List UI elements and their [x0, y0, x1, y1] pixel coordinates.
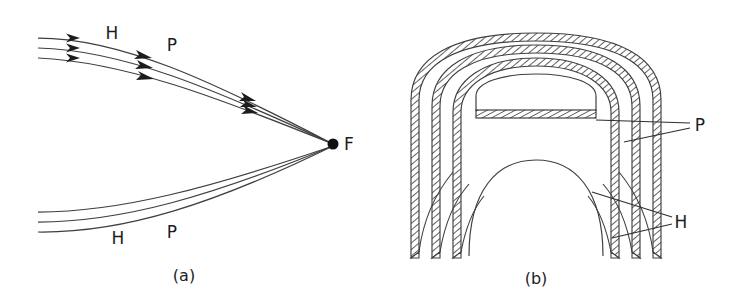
leader-lines-p: [596, 120, 690, 142]
foot-arc: [461, 196, 484, 252]
panel-b-caption: (b): [525, 269, 548, 288]
leader-line: [596, 120, 690, 123]
upper-ray-bundle: [38, 38, 333, 144]
inner-dome-outline: [476, 74, 596, 111]
panel-a-caption: (a): [173, 266, 195, 285]
upper-ray-3: [38, 58, 333, 144]
band-foot-arcs-left: [419, 172, 484, 252]
lower-ray-2: [38, 146, 333, 222]
upper-label-p: P: [167, 35, 177, 55]
core-arc: [469, 160, 603, 256]
upper-ray-1: [38, 38, 333, 144]
band-foot-arcs-right: [588, 172, 653, 252]
focal-point-dot: [328, 139, 339, 150]
scientific-figure: F H P H P (a): [0, 0, 738, 308]
focal-point-label: F: [344, 134, 354, 154]
inner-hatched-bar: [476, 110, 596, 118]
outer-band: [411, 33, 661, 258]
panel-b-label-p: P: [695, 115, 705, 135]
arrowhead: [239, 92, 256, 101]
upper-arrowheads-station-1: [66, 34, 80, 63]
upper-label-h: H: [106, 23, 119, 43]
arrowhead: [134, 50, 152, 59]
lower-ray-bundle: [38, 146, 333, 232]
band-foot-tips: [411, 252, 661, 258]
panel-a: F H P H P (a): [38, 23, 354, 285]
lower-label-p: P: [167, 222, 177, 242]
middle-band: [432, 45, 640, 258]
inner-band: [453, 58, 619, 258]
foot-arc: [588, 196, 611, 252]
arrowhead: [136, 71, 154, 80]
lower-label-h: H: [112, 228, 125, 248]
panel-b: P H (b): [411, 33, 705, 288]
figure-root: F H P H P (a): [0, 0, 738, 308]
lower-ray-1: [38, 146, 333, 212]
panel-b-label-h: H: [675, 212, 688, 232]
leader-line: [612, 224, 672, 238]
